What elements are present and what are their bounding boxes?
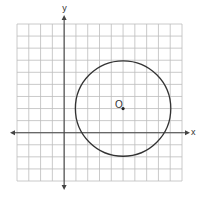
y-axis-label: y [62,4,67,13]
grid-lines [17,24,182,181]
center-label: O [115,100,123,110]
axes [10,15,190,190]
plane-svg [0,0,207,198]
coordinate-plane: y x O [0,0,207,198]
x-axis-label: x [191,128,196,137]
